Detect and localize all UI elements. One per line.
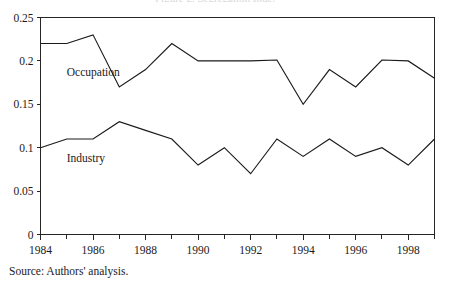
series-label-occupation: Occupation [67, 66, 120, 79]
x-axis-tick-label: 1996 [344, 244, 367, 256]
y-axis-tick-label: 0.05 [13, 185, 33, 197]
x-axis-tick-label: 1986 [82, 244, 105, 256]
y-axis-tick-label: 0.15 [13, 98, 33, 110]
y-axis-tick-label: 0.1 [19, 142, 34, 154]
x-axis-tick-label: 1998 [397, 244, 420, 256]
series-line-industry [41, 122, 435, 174]
x-axis-tick-label: 1992 [239, 244, 262, 256]
plot-frame [41, 18, 435, 235]
x-axis-tick-label: 1994 [292, 244, 315, 256]
x-axis-tick-label: 1988 [134, 244, 157, 256]
series-label-industry: Industry [67, 152, 106, 165]
y-axis-tick-label: 0.2 [19, 55, 34, 67]
x-axis-tick-label: 1990 [187, 244, 210, 256]
chart-plot-area: 0.250.20.150.10.050198419861988199019921… [0, 0, 449, 262]
source-note: Source: Authors' analysis. [9, 265, 128, 277]
x-axis-tick-label: 1984 [29, 244, 52, 256]
segregation-index-line-chart: 0.250.20.150.10.050198419861988199019921… [0, 0, 449, 262]
y-axis-tick-label: 0.25 [13, 12, 33, 24]
y-axis-tick-label: 0 [28, 229, 34, 241]
